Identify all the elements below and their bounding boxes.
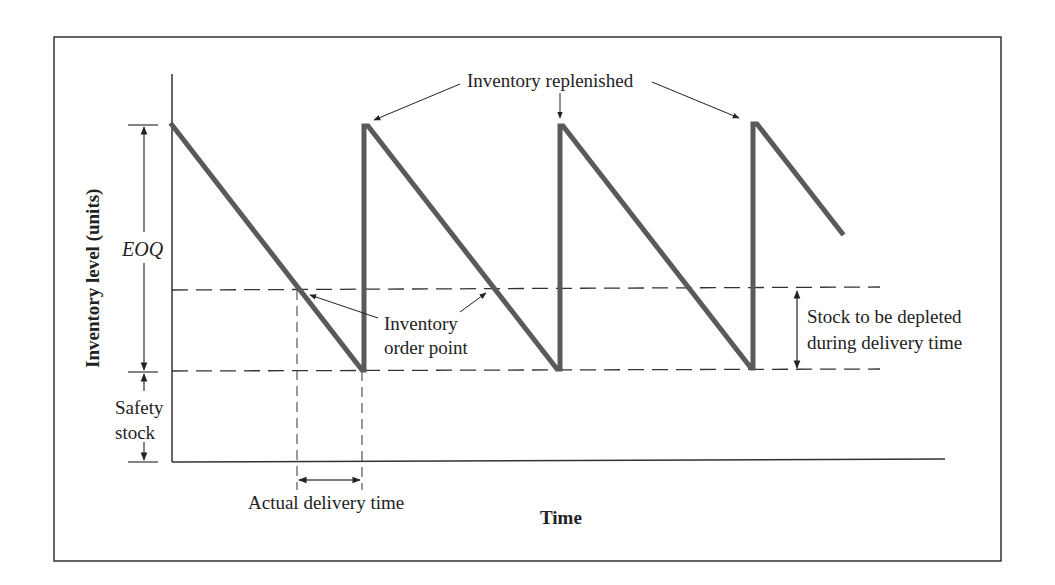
x-axis-label: Time bbox=[540, 507, 582, 528]
replenished-arrow-3 bbox=[652, 82, 739, 118]
delivery-time-label: Actual delivery time bbox=[248, 492, 404, 513]
eoq-label: EOQ bbox=[121, 238, 164, 260]
replenished-arrow-1 bbox=[374, 84, 460, 120]
order-point-label-line2: order point bbox=[384, 337, 469, 358]
order-point-arrow-2 bbox=[460, 293, 486, 312]
y-axis-label: Inventory level (units) bbox=[82, 189, 104, 368]
x-axis bbox=[172, 459, 945, 462]
depleted-label-line2: during delivery time bbox=[807, 332, 962, 353]
safety-label-line2: stock bbox=[115, 422, 156, 443]
safety-label-line1: Safety bbox=[115, 397, 164, 418]
safety-stock-line bbox=[172, 369, 880, 371]
reorder-point-line bbox=[172, 287, 880, 290]
replenished-label: Inventory replenished bbox=[467, 70, 634, 91]
figure-frame bbox=[54, 37, 1001, 561]
depleted-label-line1: Stock to be depleted bbox=[807, 306, 962, 327]
order-point-label-line1: Inventory bbox=[384, 313, 458, 334]
inventory-diagram: EOQ Safety stock Inventory level (units)… bbox=[0, 0, 1055, 585]
inventory-sawtooth bbox=[172, 124, 842, 370]
